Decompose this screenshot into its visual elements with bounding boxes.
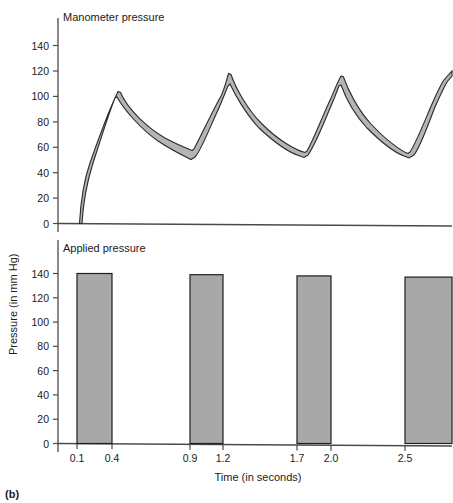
top-ytick-120: 120 [31,65,49,77]
bottom-ytick-80: 80 [37,340,49,352]
xtick-1-7: 1.7 [290,452,305,464]
bottom-x-tick-labels: 0.1 0.4 0.9 1.2 1.7 2.0 2.5 [70,452,413,464]
manometer-pressure-label: Manometer pressure [63,11,165,23]
x-axis-title: Time (in seconds) [214,471,301,483]
bar-0 [77,274,112,444]
bottom-y-ticks [53,274,58,444]
pressure-figure-svg: Pressure (in mm Hg) 140 120 [0,0,453,503]
top-ytick-140: 140 [31,40,49,52]
top-ytick-100: 100 [31,90,49,102]
bottom-ytick-60: 60 [37,365,49,377]
xtick-1-2: 1.2 [216,452,231,464]
xtick-2-5: 2.5 [398,452,413,464]
figure-caption: (b) [5,488,19,500]
top-ytick-60: 60 [37,141,49,153]
y-axis-title: Pressure (in mm Hg) [7,254,19,355]
applied-pressure-label: Applied pressure [63,242,146,254]
xtick-0-9: 0.9 [183,452,198,464]
bottom-ytick-20: 20 [37,413,49,425]
bar-1 [190,275,223,444]
manometer-trace-band [80,71,453,224]
bottom-ytick-0: 0 [43,438,49,450]
xtick-0-4: 0.4 [105,452,120,464]
top-y-tick-labels: 140 120 100 80 60 40 20 0 [31,40,49,230]
bottom-ytick-140: 140 [31,268,49,280]
figure-container: Pressure (in mm Hg) 140 120 [0,0,453,503]
top-panel: 140 120 100 80 60 40 20 0 Manometer pres… [31,11,452,232]
top-ytick-40: 40 [37,167,49,179]
bottom-ytick-120: 120 [31,292,49,304]
applied-pressure-bars [77,274,452,444]
manometer-trace [80,71,453,224]
bottom-ytick-100: 100 [31,316,49,328]
xtick-0-1: 0.1 [70,452,85,464]
bottom-x-axis [58,444,452,447]
top-ytick-0: 0 [43,218,49,230]
bar-2 [297,276,331,444]
top-ytick-80: 80 [37,116,49,128]
bar-3 [405,277,452,443]
bottom-y-tick-labels: 140 120 100 80 60 40 20 0 [31,268,49,450]
bottom-panel: 140 120 100 80 60 40 20 0 Applied pressu… [31,240,452,483]
top-y-ticks [53,46,58,224]
top-ytick-20: 20 [37,192,49,204]
xtick-2-0: 2.0 [324,452,339,464]
bottom-ytick-40: 40 [37,389,49,401]
top-x-axis [58,224,452,227]
